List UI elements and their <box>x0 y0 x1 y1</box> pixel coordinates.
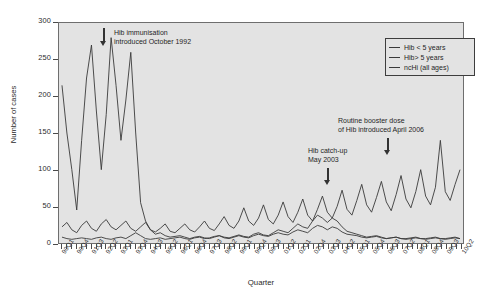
x-axis-tick <box>204 244 205 249</box>
series-line <box>62 140 460 232</box>
annotation-arrow-icon <box>383 138 392 155</box>
arrow-shaft <box>387 138 389 150</box>
legend-label: ncHi (all ages) <box>404 64 449 71</box>
y-axis-tick: 0 <box>0 244 58 245</box>
x-axis-tick <box>421 244 422 249</box>
legend-swatch-icon <box>389 67 400 68</box>
y-axis: 050100150200250300 Number of cases <box>0 0 58 244</box>
x-axis-tick <box>288 244 289 249</box>
x-axis-tick <box>318 244 319 249</box>
chart-legend: Hib < 5 years Hib> 5 years ncHi (all age… <box>385 38 475 76</box>
x-axis-tick <box>362 244 363 249</box>
x-axis-tick <box>145 244 146 249</box>
x-axis-tick <box>71 244 72 249</box>
y-tick-label: 0 <box>47 238 51 247</box>
x-axis-tick <box>110 244 111 249</box>
x-axis-tick <box>140 244 141 249</box>
y-axis-tick: 100 <box>0 170 58 171</box>
x-axis-tick <box>160 244 161 249</box>
x-axis-tick <box>101 244 102 249</box>
x-axis-tick <box>249 244 250 249</box>
y-tick-label: 150 <box>38 127 51 136</box>
x-axis-tick <box>244 244 245 249</box>
x-axis-tick <box>184 244 185 249</box>
x-axis-tick <box>219 244 220 249</box>
x-axis-tick <box>392 244 393 249</box>
annotation-routine-booster: Routine booster dose of Hib introduced A… <box>338 116 424 134</box>
legend-swatch-icon <box>389 57 400 58</box>
x-axis-tick <box>456 244 457 249</box>
x-axis-tick <box>412 244 413 249</box>
x-axis-tick <box>308 244 309 249</box>
x-axis-tick <box>347 244 348 249</box>
x-axis-tick <box>293 244 294 249</box>
x-axis-tick <box>333 244 334 249</box>
arrow-shaft <box>103 28 105 41</box>
x-axis-tick <box>214 244 215 249</box>
legend-item-hib-under5: Hib < 5 years <box>389 42 470 52</box>
y-tick-label: 50 <box>43 201 51 210</box>
x-axis-tick <box>323 244 324 249</box>
y-axis-tick: 50 <box>0 207 58 208</box>
x-axis-tick <box>338 244 339 249</box>
y-tick-label: 250 <box>38 53 51 62</box>
x-axis-tick <box>170 244 171 249</box>
x-axis: 90Q190Q491Q392Q293Q193Q494Q395Q296Q196Q4… <box>58 244 464 297</box>
x-axis-tick <box>199 244 200 249</box>
x-axis-tick <box>426 244 427 249</box>
x-axis-tick <box>125 244 126 249</box>
x-axis-tick <box>382 244 383 249</box>
y-axis-title: Number of cases <box>9 60 18 170</box>
x-axis-tick <box>81 244 82 249</box>
x-axis-title: Quarter <box>58 278 464 287</box>
x-axis-tick <box>407 244 408 249</box>
legend-swatch-icon <box>389 47 400 48</box>
arrow-head <box>384 150 390 155</box>
x-axis-tick <box>377 244 378 249</box>
x-axis-tick <box>115 244 116 249</box>
x-axis-tick <box>273 244 274 249</box>
x-axis-tick <box>189 244 190 249</box>
x-axis-tick <box>367 244 368 249</box>
x-axis-tick <box>155 244 156 249</box>
x-axis-tick <box>303 244 304 249</box>
x-axis-tick <box>96 244 97 249</box>
x-axis-tick <box>175 244 176 249</box>
arrow-head <box>100 41 106 46</box>
chart-figure: 050100150200250300 Number of cases 90Q19… <box>0 0 491 297</box>
x-axis-tick <box>352 244 353 249</box>
x-axis-tick <box>130 244 131 249</box>
x-axis-tick <box>259 244 260 249</box>
arrow-shaft <box>327 168 329 180</box>
x-axis-tick <box>66 244 67 249</box>
y-tick-label: 100 <box>38 164 51 173</box>
annotation-hib-immunisation: Hib immunisation introduced October 1992 <box>114 28 191 46</box>
legend-label: Hib> 5 years <box>404 54 444 61</box>
annotation-arrow-icon <box>323 168 332 185</box>
annotation-hib-catch-up: Hib catch-up May 2003 <box>308 146 347 164</box>
legend-label: Hib < 5 years <box>404 44 445 51</box>
x-axis-tick <box>234 244 235 249</box>
y-tick-label: 300 <box>38 16 51 25</box>
arrow-head <box>324 180 330 185</box>
x-axis-tick <box>441 244 442 249</box>
x-axis-tick <box>229 244 230 249</box>
legend-item-nchi: ncHi (all ages) <box>389 62 470 72</box>
y-axis-tick: 300 <box>0 22 58 23</box>
annotation-arrow-icon <box>99 28 108 46</box>
x-axis-tick <box>451 244 452 249</box>
x-axis-tick <box>263 244 264 249</box>
x-axis-tick <box>86 244 87 249</box>
x-axis-tick <box>397 244 398 249</box>
x-axis-tick <box>436 244 437 249</box>
legend-item-hib-over5: Hib> 5 years <box>389 52 470 62</box>
x-axis-tick <box>278 244 279 249</box>
y-tick-label: 200 <box>38 90 51 99</box>
